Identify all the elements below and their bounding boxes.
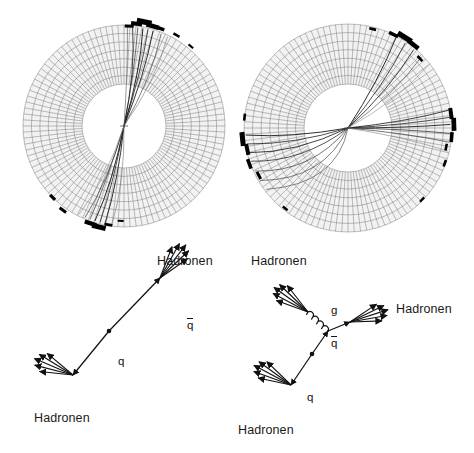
label-hadronen-right-lower: Hadronen: [238, 423, 294, 437]
schematic-right: [254, 285, 388, 385]
gluon-emission-vertex: [327, 330, 329, 332]
label-quark-left: q: [118, 355, 124, 367]
jet-schematics: [0, 0, 474, 453]
antiquark-out: [328, 322, 350, 331]
hadron-arrow: [267, 362, 291, 385]
hadron-arrow: [254, 365, 291, 385]
interaction-vertex: [107, 329, 112, 334]
hadron-jet-upper-left: [273, 285, 308, 312]
physics-figure: HadronenHadronenHadronenHadronenHadronen…: [0, 0, 474, 453]
label-hadronen-right-side: Hadronen: [396, 302, 452, 316]
antiquark-overbar: q: [331, 336, 337, 349]
hadron-jet-right: [350, 304, 388, 322]
interaction-vertex: [310, 352, 315, 357]
hadron-arrow: [280, 285, 308, 312]
hadron-jet-lower-left: [254, 362, 291, 385]
antiquark-overbar: q: [187, 318, 193, 331]
label-antiquark-left: q: [187, 318, 193, 331]
quark-prong: [73, 331, 109, 375]
label-quark-right: q: [307, 391, 313, 403]
hadron-arrow: [273, 293, 308, 312]
hadron-jet-lower: [34, 353, 73, 375]
gluon-coil: [307, 311, 329, 331]
quark-prong: [291, 354, 312, 385]
label-hadronen-left-lower: Hadronen: [34, 411, 90, 425]
antiquark-prong: [109, 278, 160, 331]
label-gluon: g: [331, 304, 337, 316]
label-hadronen-right-upper: Hadronen: [251, 254, 307, 268]
label-antiquark-right: q: [331, 336, 337, 349]
antiquark-prong: [312, 331, 328, 354]
label-hadronen-left-upper: Hadronen: [157, 254, 213, 268]
